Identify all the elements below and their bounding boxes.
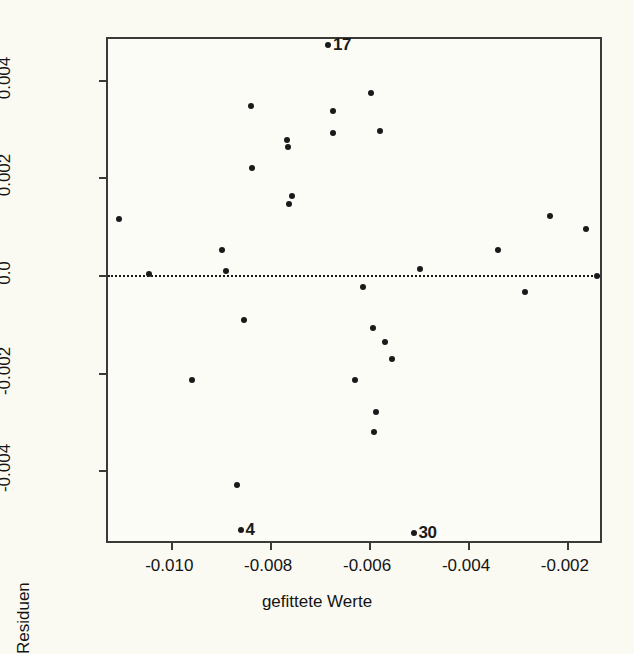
data-point xyxy=(368,90,374,96)
data-point xyxy=(411,530,417,536)
x-axis-tick-mark xyxy=(567,541,569,550)
point-annotation-label: 4 xyxy=(246,520,255,540)
y-axis-tick-label: -0.004 xyxy=(0,444,15,492)
data-point xyxy=(370,325,376,331)
x-axis-tick-label: -0.002 xyxy=(541,556,589,576)
x-axis-tick-mark xyxy=(171,541,173,550)
data-point xyxy=(116,216,122,222)
data-point xyxy=(389,356,395,362)
data-point xyxy=(495,247,501,253)
data-point xyxy=(249,165,255,171)
data-point xyxy=(234,482,240,488)
x-axis-title: gefittete Werte xyxy=(0,592,634,612)
x-axis-tick-label: -0.004 xyxy=(442,556,490,576)
x-axis-tick-mark xyxy=(270,541,272,550)
data-point xyxy=(219,247,225,253)
data-point xyxy=(522,289,528,295)
data-point xyxy=(352,377,358,383)
data-point xyxy=(146,271,152,277)
y-axis-tick-label: 0.0 xyxy=(0,261,15,285)
scatter-plot-figure: Residuen 0.0040.0020.0-0.002-0.004 -0.01… xyxy=(0,0,634,654)
data-point xyxy=(289,193,295,199)
data-point xyxy=(417,266,423,272)
data-point xyxy=(547,213,553,219)
x-axis-tick-label: -0.006 xyxy=(343,556,391,576)
y-axis-tick-mark xyxy=(99,275,108,277)
x-axis-tick-mark xyxy=(369,541,371,550)
data-point xyxy=(238,527,244,533)
y-axis-tick-mark xyxy=(99,177,108,179)
data-point xyxy=(285,144,291,150)
y-axis-tick-label: 0.002 xyxy=(0,154,15,197)
data-point xyxy=(189,377,195,383)
point-annotation-label: 30 xyxy=(419,523,437,543)
point-annotation-label: 17 xyxy=(333,35,351,55)
data-point xyxy=(360,284,366,290)
data-point xyxy=(241,317,247,323)
data-point xyxy=(330,130,336,136)
data-point xyxy=(382,339,388,345)
zero-reference-line xyxy=(108,275,600,277)
data-point xyxy=(284,137,290,143)
y-axis-title: Residuen xyxy=(14,0,34,654)
data-point xyxy=(373,409,379,415)
y-axis-tick-label: 0.004 xyxy=(0,56,15,99)
y-axis-tick-mark xyxy=(99,373,108,375)
x-axis-tick-label: -0.008 xyxy=(244,556,292,576)
data-point xyxy=(286,201,292,207)
data-point xyxy=(248,103,254,109)
data-point xyxy=(325,42,331,48)
y-axis-tick-mark xyxy=(99,80,108,82)
data-point xyxy=(583,226,589,232)
data-point xyxy=(330,108,336,114)
x-axis-tick-label: -0.010 xyxy=(145,556,193,576)
data-point xyxy=(377,128,383,134)
plot-area: 17430 xyxy=(106,37,602,543)
data-point xyxy=(594,273,600,279)
x-axis-tick-mark xyxy=(468,541,470,550)
y-axis-tick-label: -0.002 xyxy=(0,346,15,394)
y-axis-tick-mark xyxy=(99,470,108,472)
data-point xyxy=(371,429,377,435)
data-point xyxy=(223,268,229,274)
